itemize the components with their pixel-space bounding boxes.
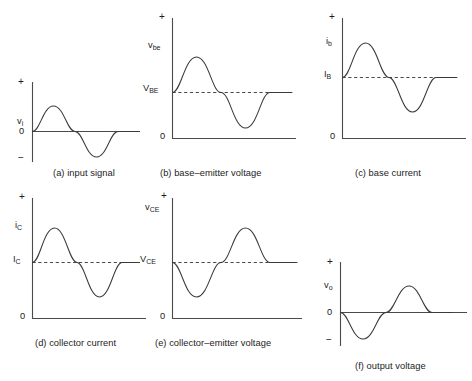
plus-sign-d: + bbox=[19, 192, 25, 202]
zero-label-d: 0 bbox=[20, 311, 25, 321]
plus-sign-a: + bbox=[18, 77, 24, 87]
plot-panel-b: + vbe VBE 0 bbox=[140, 14, 300, 144]
caption-c: (c) base current bbox=[355, 168, 421, 179]
axis-label-iC: iC bbox=[15, 220, 22, 230]
minus-sign-a: − bbox=[18, 153, 24, 163]
axis-label-IB: IB bbox=[324, 69, 331, 79]
axis-label-vo: vo bbox=[324, 280, 333, 290]
caption-a: (a) input signal bbox=[53, 168, 115, 179]
zero-label-f: 0 bbox=[327, 307, 332, 317]
plot-panel-c: + ib IB 0 bbox=[310, 14, 470, 144]
axis-label-vi: vi bbox=[17, 116, 23, 126]
zero-label-e: 0 bbox=[160, 311, 165, 321]
axis-label-vCE: vCE bbox=[145, 202, 159, 212]
waveform-figure: + vi 0 − (a) input signal + vbe VBE 0 (b… bbox=[0, 0, 472, 381]
plot-svg-b bbox=[140, 14, 300, 144]
axis-label-VCEbias: VCE bbox=[140, 254, 156, 264]
zero-label-a: 0 bbox=[19, 126, 24, 136]
zero-label-c: 0 bbox=[330, 131, 335, 141]
plus-sign-b: + bbox=[159, 12, 165, 22]
plot-svg-d bbox=[0, 194, 150, 324]
plus-sign-c: + bbox=[329, 12, 335, 22]
plot-svg-e bbox=[140, 194, 305, 324]
axis-label-ib: ib bbox=[326, 36, 332, 46]
caption-d: (d) collector current bbox=[35, 338, 116, 349]
caption-e: (e) collector–emitter voltage bbox=[155, 338, 271, 349]
axis-label-vbe: vbe bbox=[148, 40, 160, 50]
plot-panel-e: + vCE VCE 0 bbox=[140, 194, 305, 324]
minus-sign-f: − bbox=[326, 335, 332, 345]
axis-label-ICbias: IC bbox=[13, 254, 21, 264]
plus-sign-e: + bbox=[161, 191, 167, 201]
plus-sign-f: + bbox=[327, 257, 333, 267]
waveform-curve-c bbox=[343, 43, 458, 112]
zero-label-b: 0 bbox=[160, 131, 165, 141]
caption-f: (f) output voltage bbox=[355, 361, 426, 372]
axis-label-VBE: VBE bbox=[143, 83, 159, 93]
plot-svg-c bbox=[310, 14, 470, 144]
plot-panel-d: + iC IC 0 bbox=[0, 194, 150, 324]
caption-b: (b) base–emitter voltage bbox=[160, 168, 261, 179]
plot-svg-f bbox=[310, 258, 470, 350]
plot-panel-a: + vi 0 − bbox=[0, 78, 145, 166]
plot-panel-f: + vo 0 − bbox=[310, 258, 470, 350]
